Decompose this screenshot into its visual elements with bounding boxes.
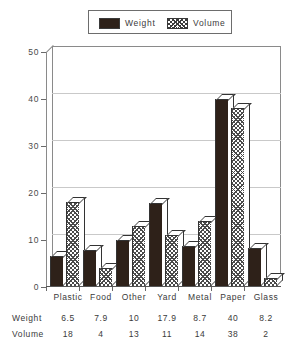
table-row: Volume 184131114382 bbox=[0, 329, 291, 345]
x-tick-mark bbox=[112, 287, 113, 291]
table-cell: 14 bbox=[195, 329, 206, 339]
bar-weight-yard bbox=[149, 203, 163, 287]
bar-chart: Weight Volume 01020304050 PlasticFoodOth… bbox=[0, 0, 291, 359]
data-table: Weight 6.57.91017.98.7408.2 Volume 18413… bbox=[0, 313, 291, 345]
y-tick-label: 30 bbox=[15, 141, 39, 151]
bar-weight-metal bbox=[182, 246, 196, 287]
bar-volume-other bbox=[132, 226, 146, 287]
x-tick-label: Glass bbox=[254, 292, 279, 302]
y-tick-label: 50 bbox=[15, 47, 39, 57]
x-tick-mark bbox=[178, 287, 179, 291]
table-cell: 11 bbox=[162, 329, 172, 339]
bar-volume-food bbox=[99, 268, 113, 287]
x-tick-mark bbox=[244, 287, 245, 291]
table-cell: 38 bbox=[228, 329, 239, 339]
legend-entry-weight: Weight bbox=[99, 16, 156, 30]
plot-area bbox=[46, 52, 281, 287]
bar-volume-yard bbox=[165, 235, 179, 287]
bar-volume-plastic bbox=[66, 202, 80, 287]
table-cell: 40 bbox=[228, 313, 239, 323]
x-tick-mark bbox=[211, 287, 212, 291]
bar-weight-food bbox=[83, 250, 97, 287]
legend-label-volume: Volume bbox=[193, 18, 226, 28]
x-tick-label: Other bbox=[122, 292, 146, 302]
bar-weight-glass bbox=[248, 248, 262, 287]
bar-volume-metal bbox=[198, 221, 212, 287]
y-tick-label: 40 bbox=[15, 94, 39, 104]
x-tick-label: Paper bbox=[220, 292, 246, 302]
table-cell: 4 bbox=[98, 329, 103, 339]
table-cell: 13 bbox=[129, 329, 140, 339]
table-cell: 18 bbox=[63, 329, 74, 339]
bar-weight-paper bbox=[215, 99, 229, 287]
bar-weight-plastic bbox=[50, 256, 64, 287]
table-cell: 8.2 bbox=[259, 313, 273, 323]
table-cell: 17.9 bbox=[158, 313, 177, 323]
table-cell: 8.7 bbox=[193, 313, 207, 323]
gridline bbox=[52, 93, 281, 94]
y-tick-label: 0 bbox=[15, 282, 39, 292]
table-cell: 10 bbox=[129, 313, 140, 323]
y-tick-label: 20 bbox=[15, 188, 39, 198]
x-tick-label: Plastic bbox=[53, 292, 82, 302]
legend-label-weight: Weight bbox=[125, 18, 156, 28]
table-cell: 6.5 bbox=[61, 313, 75, 323]
x-tick-label: Food bbox=[90, 292, 112, 302]
table-cell: 7.9 bbox=[94, 313, 108, 323]
row-header-weight: Weight bbox=[12, 313, 42, 323]
x-axis-line bbox=[46, 286, 281, 287]
chart-legend: Weight Volume bbox=[88, 10, 232, 34]
bar-volume-paper bbox=[231, 108, 245, 287]
legend-swatch-weight-icon bbox=[99, 18, 120, 29]
x-tick-mark bbox=[46, 287, 47, 291]
x-tick-label: Metal bbox=[188, 292, 212, 302]
table-row: Weight 6.57.91017.98.7408.2 bbox=[0, 313, 291, 329]
x-tick-label: Yard bbox=[157, 292, 177, 302]
table-cell: 2 bbox=[263, 329, 268, 339]
legend-swatch-volume-icon bbox=[167, 18, 188, 29]
y-tick-label: 10 bbox=[15, 235, 39, 245]
y-axis-line bbox=[46, 52, 47, 287]
legend-entry-volume: Volume bbox=[167, 16, 226, 30]
x-tick-mark bbox=[145, 287, 146, 291]
bar-weight-other bbox=[116, 240, 130, 287]
x-tick-mark bbox=[79, 287, 80, 291]
row-header-volume: Volume bbox=[12, 329, 44, 339]
